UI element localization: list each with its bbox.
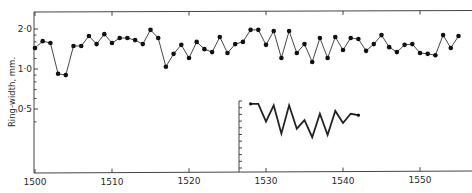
- data-point-marker: [449, 46, 454, 51]
- data-point-marker: [287, 29, 292, 34]
- data-point-marker: [117, 36, 122, 41]
- data-point-marker: [64, 73, 69, 78]
- data-point-marker: [40, 39, 45, 44]
- x-tick-label: 1550: [409, 175, 432, 185]
- data-point-marker: [318, 36, 323, 41]
- inset-plot: [239, 101, 360, 172]
- y-tick-label: 0·5: [18, 104, 32, 114]
- x-tick-label: 1510: [101, 177, 124, 187]
- x-tick-label: 1500: [24, 177, 47, 187]
- data-point-marker: [79, 44, 84, 49]
- data-point-marker: [364, 49, 369, 54]
- data-point-marker: [256, 28, 261, 33]
- data-point-marker: [418, 51, 423, 56]
- inset-start-marker: [249, 102, 252, 105]
- y-tick-label: 1·0: [18, 64, 33, 74]
- x-tick-label: 1540: [332, 176, 355, 186]
- data-series: [33, 28, 461, 78]
- data-point-marker: [233, 42, 238, 47]
- y-tick-label: 2·0: [18, 24, 33, 34]
- axes: [34, 11, 472, 174]
- data-point-marker: [133, 38, 138, 43]
- data-point-marker: [156, 36, 161, 41]
- y-axis-ticks: 2·01·00·5: [18, 24, 38, 122]
- data-point-marker: [141, 42, 146, 47]
- y-axis-title: Ring-width, mm.: [7, 57, 17, 127]
- x-tick-label: 1530: [255, 176, 278, 186]
- data-point-marker: [348, 36, 353, 41]
- data-point-marker: [33, 46, 38, 51]
- x-axis-line: [34, 171, 472, 173]
- data-point-marker: [148, 28, 153, 33]
- data-point-marker: [425, 52, 430, 57]
- inset-series-line: [251, 104, 359, 137]
- data-point-marker: [310, 60, 315, 65]
- data-point-marker: [102, 32, 107, 37]
- data-point-marker: [295, 51, 300, 56]
- inset-end-marker: [357, 114, 360, 117]
- data-point-marker: [302, 42, 307, 47]
- data-point-marker: [379, 33, 384, 38]
- data-point-marker: [164, 64, 169, 69]
- data-point-marker: [402, 43, 407, 48]
- data-point-marker: [433, 53, 438, 58]
- data-point-marker: [48, 41, 53, 46]
- data-point-marker: [341, 48, 346, 53]
- data-point-marker: [395, 50, 400, 55]
- data-point-marker: [225, 51, 230, 56]
- data-point-marker: [71, 44, 76, 49]
- data-point-marker: [94, 42, 99, 47]
- data-point-marker: [241, 40, 246, 45]
- x-axis-ticks: 150015101520153015401550: [24, 11, 432, 187]
- data-point-marker: [356, 37, 361, 42]
- data-point-marker: [179, 43, 184, 48]
- data-point-marker: [410, 42, 415, 47]
- data-point-marker: [125, 36, 130, 41]
- ring-width-chart: 2·01·00·5 150015101520153015401550 Ring-…: [0, 0, 472, 193]
- top-border-line: [34, 11, 472, 13]
- data-point-marker: [110, 41, 115, 46]
- data-point-marker: [264, 43, 269, 48]
- x-tick-label: 1520: [178, 176, 201, 186]
- data-point-marker: [456, 34, 461, 39]
- data-point-marker: [387, 45, 392, 50]
- data-point-marker: [325, 56, 330, 61]
- data-point-marker: [333, 35, 338, 40]
- data-point-marker: [372, 42, 377, 47]
- data-point-marker: [441, 33, 446, 38]
- data-point-marker: [194, 40, 199, 45]
- data-point-marker: [202, 47, 207, 52]
- data-point-marker: [218, 35, 223, 40]
- data-point-marker: [87, 34, 92, 39]
- data-point-marker: [279, 56, 284, 61]
- data-point-marker: [187, 56, 192, 61]
- data-point-marker: [171, 52, 176, 57]
- data-point-marker: [248, 28, 253, 33]
- data-point-marker: [56, 72, 61, 77]
- data-point-marker: [210, 50, 215, 55]
- data-point-marker: [271, 29, 276, 34]
